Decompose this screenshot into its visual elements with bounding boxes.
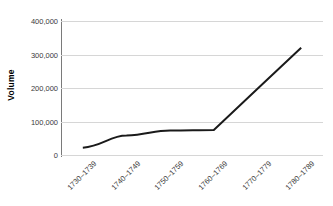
y-axis-tick-label: 200,000: [14, 84, 58, 93]
series-volume-path: [83, 48, 301, 148]
x-axis-tick-label: 1730–1739: [65, 159, 98, 192]
data-series-line: [61, 21, 323, 155]
y-axis-tick-label: 100,000: [14, 117, 58, 126]
x-axis-tick-label: 1780–1789: [284, 159, 317, 192]
chart-screenshot: Volume 0100,000200,000300,000400,000 173…: [0, 0, 333, 206]
x-axis-tick-labels: 1730–17391740–17491750–17591760–17691770…: [61, 155, 323, 206]
y-axis-tick-label: 400,000: [14, 17, 58, 26]
y-axis-tick-label: 0: [14, 151, 58, 160]
y-axis-tick-label: 300,000: [14, 50, 58, 59]
x-axis-tick-label: 1770–1779: [240, 159, 273, 192]
x-axis-tick-label: 1750–1759: [153, 159, 186, 192]
plot-area: [61, 21, 323, 155]
x-axis-tick-label: 1740–1749: [109, 159, 142, 192]
y-axis-tick-labels: 0100,000200,000300,000400,000: [14, 21, 58, 155]
x-axis-tick-label: 1760–1769: [196, 159, 229, 192]
line-chart-figure: Volume 0100,000200,000300,000400,000 173…: [0, 0, 333, 206]
